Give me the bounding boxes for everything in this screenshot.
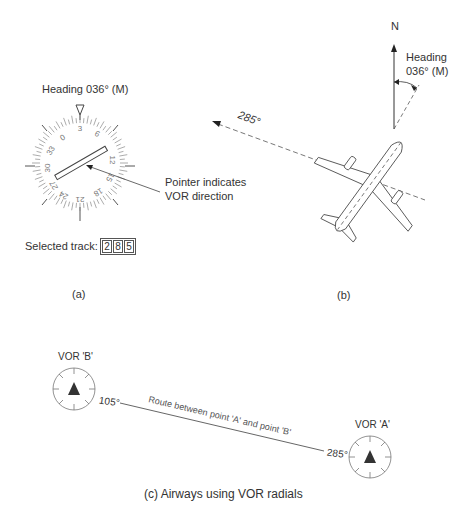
- svg-text:3: 3: [78, 124, 83, 133]
- svg-text:18: 18: [92, 186, 105, 199]
- pointer-label-line1: Pointer indicates: [165, 176, 246, 188]
- vor-pointer: [55, 146, 108, 179]
- vor-a-label: VOR 'A': [355, 419, 390, 430]
- caption-a: (a): [72, 288, 85, 300]
- svg-text:0: 0: [59, 133, 68, 143]
- track-digit: 2: [102, 240, 112, 253]
- bearing-arrow-icon: [212, 121, 221, 127]
- track-digit: 8: [113, 240, 123, 253]
- north-label: N: [391, 20, 399, 32]
- vor-b-triangle-icon: [68, 382, 80, 395]
- svg-text:15: 15: [104, 171, 117, 184]
- vor-a-triangle-icon: [364, 450, 376, 463]
- svg-text:6: 6: [93, 129, 102, 139]
- diagram-canvas: 3 6 0 33 30 27 24 21 18 15 12: [0, 0, 466, 509]
- selected-track-label: Selected track:: [25, 240, 98, 252]
- selected-track-display: 2 8 5: [100, 238, 136, 255]
- heading-label: Heading 036° (M): [42, 83, 128, 95]
- caption-b: (b): [337, 289, 350, 301]
- north-arrow-icon: [391, 44, 397, 52]
- caption-c: (c) Airways using VOR radials: [144, 487, 303, 501]
- heading-b-line1: Heading: [406, 51, 447, 63]
- pointer-label-line2: VOR direction: [165, 190, 233, 202]
- vor-b-label: VOR 'B': [58, 351, 93, 362]
- heading-b-line2: 036° (M): [406, 65, 448, 77]
- track-digit: 5: [124, 240, 134, 253]
- svg-text:33: 33: [45, 144, 58, 157]
- aircraft-icon: [290, 108, 448, 265]
- callout-arrow-icon: [86, 165, 93, 170]
- svg-text:30: 30: [43, 163, 52, 172]
- svg-text:27: 27: [47, 179, 60, 192]
- svg-text:21: 21: [75, 195, 84, 204]
- svg-text:12: 12: [108, 156, 117, 165]
- route-label: Route between point 'A' and point 'B': [148, 394, 293, 437]
- heading-index-icon: [76, 105, 84, 115]
